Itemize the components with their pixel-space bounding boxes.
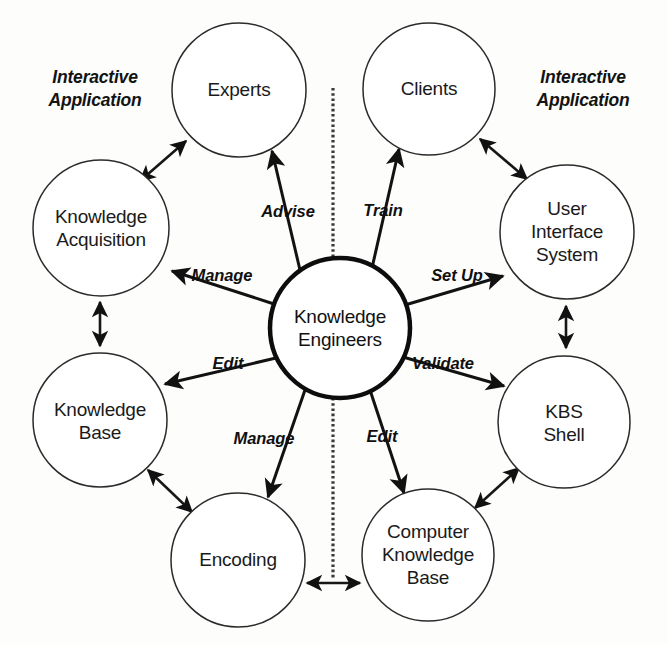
arrow-ckb-kbs [475,468,519,508]
node-circle-knowledge-acquisition[interactable] [33,160,169,296]
node-label-computer-knowledge-base-line2: Knowledge [382,544,474,565]
node-label-knowledge-acquisition-line2: Acquisition [56,229,146,250]
side-label-right-line1: Interactive [540,67,626,87]
side-label-left-line2: Application [47,90,141,110]
node-label-clients: Clients [401,78,458,99]
knowledge-engineering-diagram: Experts Clients Knowledge Acquisition Us… [0,0,667,645]
diagram-canvas: Experts Clients Knowledge Acquisition Us… [0,0,667,645]
node-kbs-shell[interactable]: KBS Shell [498,356,630,488]
node-label-user-interface-system-line1: User [547,198,587,219]
side-label-right-line2: Application [535,90,629,110]
side-label-interactive-application-right: Interactive Application [535,67,629,110]
node-label-user-interface-system-line3: System [536,244,598,265]
relation-label-edit-knowledge-base: Edit [213,354,245,372]
relation-label-train: Train [363,201,403,219]
node-label-knowledge-engineers-line2: Engineers [298,329,382,350]
relation-label-manage-knowledge-acquisition: Manage [192,266,253,284]
relation-label-edit-computer-knowledge-base: Edit [367,427,399,445]
node-label-knowledge-base-line1: Knowledge [54,399,146,420]
node-label-knowledge-engineers-line1: Knowledge [294,306,386,327]
node-knowledge-acquisition[interactable]: Knowledge Acquisition [33,160,169,296]
relation-label-manage-encoding: Manage [234,429,295,447]
side-label-left-line1: Interactive [52,67,138,87]
arrow-ka-experts [140,141,186,181]
node-knowledge-base[interactable]: Knowledge Base [33,353,167,487]
node-label-experts: Experts [207,79,270,100]
arrow-kb-encoding [148,470,192,512]
node-computer-knowledge-base[interactable]: Computer Knowledge Base [362,489,494,621]
node-label-kbs-shell-line2: Shell [543,424,584,445]
node-label-kbs-shell-line1: KBS [545,401,582,422]
node-user-interface-system[interactable]: User Interface System [500,165,634,299]
node-label-computer-knowledge-base-line3: Base [407,567,450,588]
relation-label-advise: Advise [260,202,315,220]
node-label-knowledge-acquisition-line1: Knowledge [55,206,147,227]
node-knowledge-engineers[interactable]: Knowledge Engineers [270,258,410,398]
node-encoding[interactable]: Encoding [171,493,305,627]
relation-label-validate: Validate [412,354,474,372]
relation-label-set-up: Set Up [431,266,483,284]
node-experts[interactable]: Experts [172,23,306,157]
node-label-encoding: Encoding [199,549,277,570]
node-label-user-interface-system-line2: Interface [531,221,603,242]
node-label-computer-knowledge-base-line1: Computer [387,521,470,542]
node-circle-knowledge-engineers[interactable] [270,258,410,398]
side-label-interactive-application-left: Interactive Application [47,67,141,110]
node-label-knowledge-base-line2: Base [79,422,122,443]
node-clients[interactable]: Clients [363,23,495,155]
arrow-clients-uis [480,139,527,179]
